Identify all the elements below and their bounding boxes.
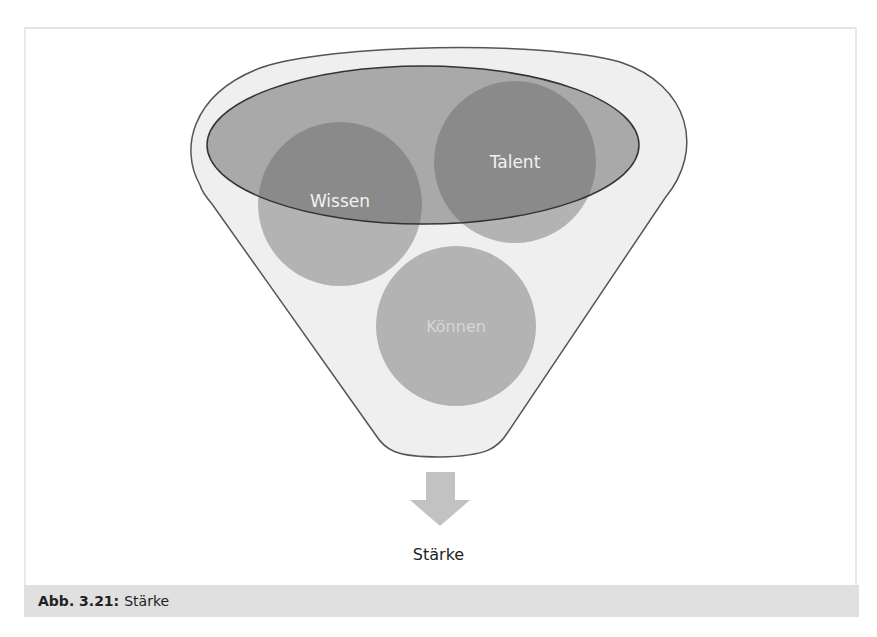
koennen-label: Können [426,317,486,336]
funnel-diagram: Wissen Talent Können [0,0,877,637]
down-arrow-icon [410,472,470,526]
figure-caption: Abb. 3.21: Stärke [24,585,859,617]
output-label-staerke: Stärke [0,545,877,564]
talent-label: Talent [489,152,541,172]
caption-text: Stärke [124,593,169,609]
caption-number: Abb. 3.21: [38,593,119,609]
wissen-label: Wissen [310,191,370,211]
